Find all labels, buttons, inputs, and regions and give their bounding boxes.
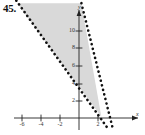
x-tick-label-2: 2 bbox=[92, 121, 104, 127]
y-axis-label: y bbox=[78, 4, 81, 10]
y-tick-label-4: 4 bbox=[63, 80, 75, 86]
figure-container: 45. y x -6 -4 -2 bbox=[0, 0, 145, 135]
y-tick-label-10: 10 bbox=[63, 27, 75, 33]
x-tick-label--6: -6 bbox=[15, 121, 29, 127]
x-tick-label--4: -4 bbox=[34, 121, 48, 127]
x-axis bbox=[14, 115, 138, 122]
x-axis-label: x bbox=[136, 111, 139, 117]
y-tick-label-8: 8 bbox=[63, 44, 75, 50]
y-tick-label-6: 6 bbox=[63, 62, 75, 68]
x-tick-label--2: -2 bbox=[53, 121, 67, 127]
y-tick-label-2: 2 bbox=[63, 97, 75, 103]
